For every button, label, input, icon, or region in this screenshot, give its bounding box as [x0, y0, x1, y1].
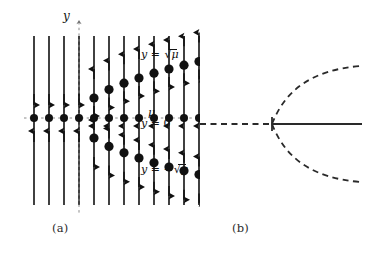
- fixed-point-zero: [45, 114, 53, 122]
- fixed-point-upper-branch: [134, 73, 143, 82]
- fixed-point-upper-branch: [104, 85, 113, 94]
- fixed-point-lower-branch: [104, 142, 113, 151]
- panel-b-canvas: [190, 0, 377, 259]
- fixed-point-zero: [30, 114, 38, 122]
- equals-sign-upper: =: [151, 48, 160, 61]
- fixed-point-zero: [180, 114, 188, 122]
- vertical-phase-lines: [34, 36, 199, 205]
- fixed-point-zero: [90, 114, 98, 122]
- zero-symbol: 0: [163, 117, 170, 130]
- caption-panel-a: (a): [52, 221, 68, 235]
- minus-sign-lower: −: [163, 163, 172, 176]
- fixed-point-upper-branch: [164, 64, 173, 73]
- caption-panel-b: (b): [232, 221, 249, 235]
- fixed-point-zero: [105, 114, 113, 122]
- radical-upper: √μ: [163, 48, 178, 61]
- fixed-point-lower-branch: [89, 133, 98, 142]
- fixed-point-zero: [60, 114, 68, 122]
- figure-root: y y = √μ μ y = 0 y = −√μ (a) (b): [0, 0, 377, 259]
- equals-sign-lower: =: [151, 163, 160, 176]
- radical-lower: √μ: [173, 163, 188, 176]
- fixed-point-lower-branch: [134, 153, 143, 162]
- equals-sign-center: =: [151, 117, 160, 130]
- fixed-point-upper-branch: [89, 93, 98, 102]
- branch-label-center: y = 0: [141, 117, 170, 130]
- axis-label-y: y: [63, 9, 70, 23]
- bifurcation-branches: [200, 66, 362, 182]
- branch-lower-parabola: [272, 124, 360, 182]
- branch-label-lower: y = −√μ: [141, 163, 188, 176]
- panel-a-phase-portraits: y y = √μ μ y = 0 y = −√μ: [0, 0, 200, 259]
- fixed-point-lower-branch: [119, 148, 128, 157]
- panel-b-bifurcation-diagram: [190, 0, 377, 259]
- fixed-point-upper-branch: [119, 79, 128, 88]
- fixed-point-upper-branch: [179, 61, 188, 70]
- fixed-point-upper-branch: [149, 69, 158, 78]
- branch-upper-parabola: [272, 66, 360, 124]
- branch-label-upper: y = √μ: [141, 48, 179, 61]
- fixed-point-zero: [75, 114, 83, 122]
- fixed-point-zero: [120, 114, 128, 122]
